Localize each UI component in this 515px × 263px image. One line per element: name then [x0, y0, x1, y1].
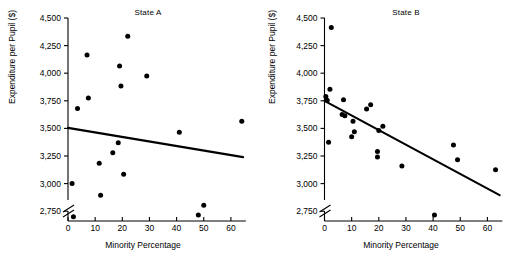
- y-tick-label: 3,750: [40, 96, 62, 106]
- data-point: [368, 102, 373, 107]
- y-tick-label: 4,500: [296, 13, 318, 23]
- data-point: [121, 172, 126, 177]
- data-point: [451, 142, 456, 147]
- data-point: [86, 96, 91, 101]
- data-point: [432, 213, 437, 218]
- y-tick-label: 4,500: [40, 13, 62, 23]
- x-tick-label: 10: [347, 223, 357, 233]
- data-point: [98, 193, 103, 198]
- data-point: [125, 34, 130, 39]
- data-point: [325, 98, 330, 103]
- data-point: [201, 203, 206, 208]
- data-point: [380, 124, 385, 129]
- data-point: [375, 155, 380, 160]
- y-tick-label: 3,000: [296, 179, 318, 189]
- data-point: [71, 214, 76, 219]
- x-axis-state-a: 0102030405060: [66, 217, 246, 233]
- y-tick-label: 3,500: [296, 123, 318, 133]
- data-points-state-a: [70, 34, 245, 220]
- trend-line: [68, 128, 243, 157]
- y-tick-label: 2,750: [296, 206, 318, 216]
- x-tick-label: 50: [199, 223, 209, 233]
- data-point: [352, 129, 357, 134]
- x-tick-label: 50: [456, 223, 466, 233]
- x-tick-label: 30: [401, 223, 411, 233]
- y-tick-label: 4,000: [296, 68, 318, 78]
- data-point: [493, 167, 498, 172]
- data-point: [70, 181, 75, 186]
- y-tick-label: 3,750: [296, 96, 318, 106]
- data-point: [118, 83, 123, 88]
- data-point: [110, 150, 115, 155]
- data-point: [399, 163, 404, 168]
- data-point: [376, 128, 381, 133]
- data-point: [342, 113, 347, 118]
- data-point: [375, 149, 380, 154]
- data-point: [455, 157, 460, 162]
- data-point: [75, 106, 80, 111]
- x-tick-label: 40: [428, 223, 438, 233]
- y-axis-state-a: 2,7503,0003,2503,5003,7504,0004,2504,500: [40, 13, 68, 221]
- data-point: [144, 73, 149, 78]
- panel-state-b: State B Expenditure per Pupil ($) 2,7503…: [257, 0, 515, 263]
- data-point: [364, 107, 369, 112]
- data-point: [85, 52, 90, 57]
- data-point: [196, 213, 201, 218]
- data-point: [116, 140, 121, 145]
- x-tick-label: 0: [322, 223, 327, 233]
- x-tick-label: 10: [90, 223, 100, 233]
- x-axis-state-b: 0102030405060: [322, 217, 502, 233]
- y-tick-label: 4,000: [40, 68, 62, 78]
- trend-line-state-a: [68, 128, 243, 157]
- data-point: [177, 130, 182, 135]
- data-point: [326, 140, 331, 145]
- data-point: [349, 134, 354, 139]
- y-tick-label: 4,250: [40, 41, 62, 51]
- x-tick-label: 60: [226, 223, 236, 233]
- trend-line: [325, 101, 500, 195]
- y-tick-label: 3,250: [40, 151, 62, 161]
- data-point: [341, 97, 346, 102]
- x-axis-label-state-a: Minority Percentage: [0, 240, 258, 250]
- y-tick-label: 4,250: [296, 41, 318, 51]
- data-point: [117, 64, 122, 69]
- data-point: [351, 119, 356, 124]
- x-axis-label-state-b: Minority Percentage: [257, 240, 515, 250]
- data-point: [327, 87, 332, 92]
- y-tick-label: 3,500: [40, 123, 62, 133]
- data-point: [329, 25, 334, 30]
- x-tick-label: 20: [118, 223, 128, 233]
- plot-area-state-a: 2,7503,0003,2503,5003,7504,0004,2504,500…: [0, 0, 258, 263]
- x-tick-label: 30: [145, 223, 155, 233]
- data-point: [239, 119, 244, 124]
- scatter-figure: State A Expenditure per Pupil ($) 2,7503…: [0, 0, 515, 263]
- x-tick-label: 40: [172, 223, 182, 233]
- x-tick-label: 0: [66, 223, 71, 233]
- data-points-state-b: [323, 25, 498, 218]
- data-point: [97, 161, 102, 166]
- y-tick-label: 3,000: [40, 179, 62, 189]
- x-tick-label: 60: [483, 223, 493, 233]
- trend-line-state-b: [325, 101, 500, 195]
- y-tick-label: 3,250: [296, 151, 318, 161]
- x-tick-label: 20: [374, 223, 384, 233]
- panel-state-a: State A Expenditure per Pupil ($) 2,7503…: [0, 0, 258, 263]
- y-tick-label: 2,750: [40, 206, 62, 216]
- y-axis-state-b: 2,7503,0003,2503,5003,7504,0004,2504,500: [296, 13, 324, 221]
- plot-area-state-b: 2,7503,0003,2503,5003,7504,0004,2504,500…: [257, 0, 515, 263]
